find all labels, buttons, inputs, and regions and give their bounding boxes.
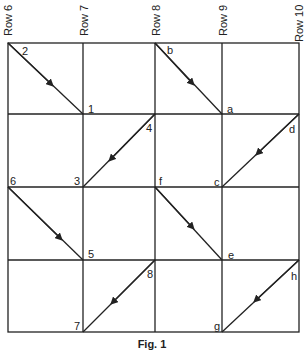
stitch-grid-diagram	[0, 0, 304, 352]
column-label-row-8: Row 8	[150, 5, 162, 36]
column-label-row-6: Row 6	[2, 5, 14, 36]
point-label-3: 3	[74, 176, 80, 187]
point-label-f: f	[159, 176, 162, 187]
point-label-6: 6	[10, 176, 16, 187]
point-label-b: b	[167, 45, 173, 56]
grid-lines	[8, 43, 299, 332]
point-label-h: h	[291, 271, 297, 282]
point-label-c: c	[214, 177, 220, 188]
figure-caption: Fig. 1	[0, 338, 304, 350]
column-label-row-10: Row 10	[293, 5, 304, 42]
column-label-row-7: Row 7	[78, 5, 90, 36]
point-label-8: 8	[147, 269, 153, 280]
point-label-g: g	[214, 321, 220, 332]
point-label-2: 2	[22, 46, 28, 57]
point-label-d: d	[289, 124, 295, 135]
point-label-4: 4	[146, 123, 152, 134]
column-label-row-9: Row 9	[217, 5, 229, 36]
point-label-5: 5	[88, 249, 94, 260]
point-label-7: 7	[74, 321, 80, 332]
point-label-1: 1	[88, 104, 94, 115]
point-label-e: e	[228, 250, 234, 261]
point-label-a: a	[227, 104, 233, 115]
